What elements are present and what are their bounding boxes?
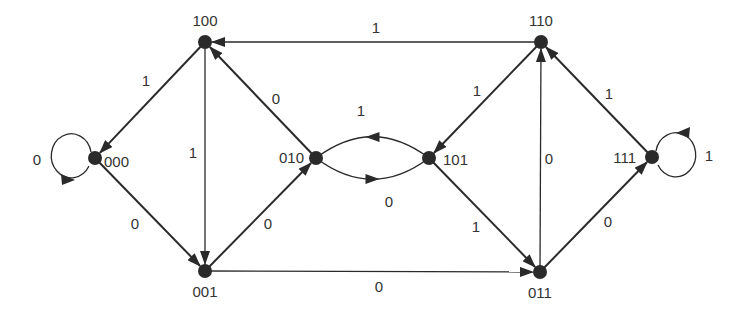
edge-011-to-110 <box>540 49 541 272</box>
edge-001-to-010 <box>205 163 311 271</box>
arrowhead-icon <box>366 174 380 184</box>
edge-label: 0 <box>375 278 383 295</box>
self-loop-edge-111 <box>656 133 696 177</box>
state-node-001 <box>198 264 212 278</box>
edge-label: 0 <box>604 213 612 230</box>
state-node-000 <box>88 151 102 165</box>
edge-110-to-101 <box>434 42 541 153</box>
state-label-000: 000 <box>104 153 129 170</box>
self-loop-edge-000 <box>51 134 91 178</box>
arrowhead-icon <box>676 127 690 138</box>
edge-001-to-011 <box>205 271 533 272</box>
edge-label: 0 <box>272 90 280 107</box>
arrowhead-icon <box>61 174 75 185</box>
edge-111-to-110 <box>546 47 652 157</box>
state-label-100: 100 <box>192 12 217 29</box>
edge-000-to-001 <box>95 158 200 266</box>
state-node-101 <box>422 151 436 165</box>
edge-label: 0 <box>33 151 41 168</box>
state-node-011 <box>533 265 547 279</box>
state-label-101: 101 <box>443 151 468 168</box>
edge-011-to-111 <box>540 162 647 272</box>
edge-label: 0 <box>545 150 553 167</box>
edge-label: 0 <box>385 193 393 210</box>
edge-101-to-011 <box>429 158 535 267</box>
edge-100-to-000 <box>100 42 205 153</box>
edge-label: 1 <box>705 147 713 164</box>
state-node-100 <box>198 35 212 49</box>
edge-label: 1 <box>357 102 365 119</box>
edge-label: 1 <box>473 82 481 99</box>
edge-010-to-100 <box>210 47 316 158</box>
edge-101-to-010 <box>316 137 429 158</box>
edge-label: 1 <box>605 85 613 102</box>
edge-label: 0 <box>264 215 272 232</box>
state-label-011: 011 <box>528 284 552 301</box>
state-node-110 <box>534 35 548 49</box>
edge-label: 1 <box>189 144 197 161</box>
state-label-001: 001 <box>192 283 217 300</box>
edge-label: 1 <box>372 19 380 36</box>
edge-010-to-101 <box>316 158 429 179</box>
state-diagram: 1110001011000101100110000010101111001011 <box>0 0 738 322</box>
state-label-110: 110 <box>529 12 553 29</box>
state-node-010 <box>309 151 323 165</box>
edge-label: 1 <box>472 218 480 235</box>
edge-label: 1 <box>142 72 150 89</box>
edge-label: 0 <box>131 215 139 232</box>
arrowhead-icon <box>366 132 380 142</box>
state-node-111 <box>645 150 659 164</box>
state-label-111: 111 <box>613 149 636 166</box>
labels-group: 1110001011000101100110000010101111001011 <box>33 12 713 301</box>
nodes-group <box>88 35 659 279</box>
state-label-010: 010 <box>279 149 304 166</box>
